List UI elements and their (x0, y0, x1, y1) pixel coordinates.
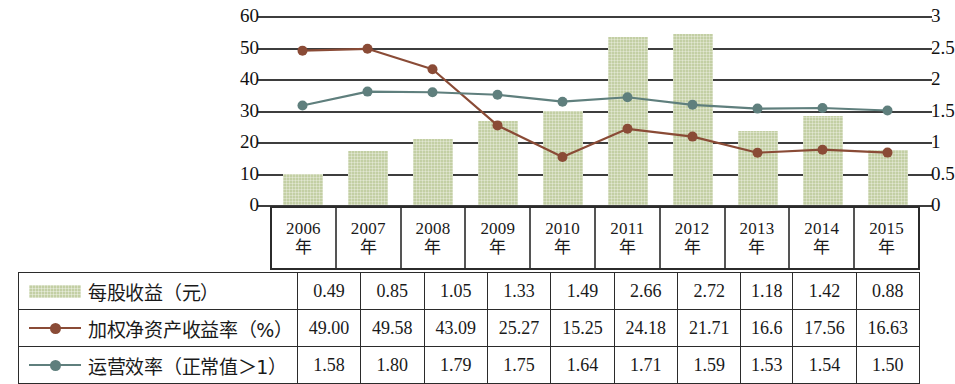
table-cell-value: 1.71 (614, 347, 677, 384)
right-axis-tick-label: 1 (931, 132, 941, 151)
legend-bar-swatch-icon (29, 285, 81, 298)
table-cell-value: 1.42 (793, 273, 856, 310)
left-tick-stub (258, 79, 270, 81)
year-header-cell: 2009年 (466, 208, 531, 268)
left-axis-tick-label: 60 (240, 6, 259, 25)
table-cell-value: 21.71 (678, 310, 741, 347)
right-axis-tick-label: 2.5 (931, 38, 955, 57)
year-header-cell: 2015年 (855, 208, 918, 268)
data-point-marker (883, 106, 893, 116)
table-cell-value: 49.00 (297, 310, 360, 347)
line-series-layer (270, 16, 920, 205)
right-axis-tick-label: 1.5 (931, 101, 955, 120)
table-cell-value: 15.25 (551, 310, 614, 347)
table-cell-value: 43.09 (424, 310, 487, 347)
year-header-cell: 2014年 (790, 208, 855, 268)
data-point-marker (818, 145, 828, 155)
data-point-marker (298, 100, 308, 110)
year-header-cell: 2007年 (337, 208, 402, 268)
left-tick-stub (258, 16, 270, 18)
legend-line-marker-roe-icon (29, 322, 81, 335)
table-cell-value: 1.50 (856, 347, 919, 384)
data-point-marker (428, 64, 438, 74)
data-point-marker (493, 90, 503, 100)
year-header-cell: 2008年 (402, 208, 467, 268)
data-point-marker (298, 46, 308, 56)
year-number: 2014 (804, 219, 839, 238)
table-row: 加权净资产收益率（%）49.0049.5843.0925.2715.2524.1… (19, 310, 920, 347)
right-axis-tick-label: 0 (931, 195, 941, 214)
year-suffix: 年 (554, 238, 571, 257)
data-point-marker (558, 97, 568, 107)
table-cell-value: 1.53 (741, 347, 793, 384)
data-point-marker (363, 44, 373, 54)
left-axis-tick-label: 20 (240, 132, 259, 151)
legend-label: 运营效率（正常值＞1） (88, 352, 287, 379)
left-axis-tick-label: 50 (240, 38, 259, 57)
left-axis-tick-label: 40 (240, 69, 259, 88)
year-header-cell: 2010年 (531, 208, 596, 268)
data-point-marker (428, 87, 438, 97)
right-axis-tick-label: 2 (931, 69, 941, 88)
table-cell-value: 2.66 (614, 273, 677, 310)
table-cell-value: 1.33 (487, 273, 550, 310)
data-point-marker (363, 87, 373, 97)
table-cell-value: 0.49 (297, 273, 360, 310)
left-tick-stub (258, 48, 270, 50)
year-suffix: 年 (684, 238, 701, 257)
data-table: 每股收益（元）0.490.851.051.331.492.662.721.181… (18, 272, 920, 384)
data-point-marker (753, 104, 763, 114)
legend-label: 加权净资产收益率（%） (88, 315, 293, 342)
year-number: 2011 (610, 219, 644, 238)
table-cell-value: 1.54 (793, 347, 856, 384)
plot-area: 0102030405060 00.511.522.53 (270, 16, 920, 205)
data-point-marker (688, 132, 698, 142)
table-cell-value: 49.58 (361, 310, 424, 347)
year-number: 2007 (351, 219, 386, 238)
table-cell-value: 0.88 (856, 273, 919, 310)
year-suffix: 年 (360, 238, 377, 257)
legend-cell: 运营效率（正常值＞1） (19, 347, 298, 384)
table-row: 每股收益（元）0.490.851.051.331.492.662.721.181… (19, 273, 920, 310)
table-row: 运营效率（正常值＞1）1.581.801.791.751.641.711.591… (19, 347, 920, 384)
table-cell-value: 0.85 (361, 273, 424, 310)
year-suffix: 年 (489, 238, 506, 257)
table-cell-value: 1.18 (741, 273, 793, 310)
year-suffix: 年 (748, 238, 765, 257)
table-cell-value: 1.59 (678, 347, 741, 384)
table-cell-value: 16.63 (856, 310, 919, 347)
table-cell-value: 16.6 (741, 310, 793, 347)
left-axis-tick-label: 0 (250, 195, 260, 214)
year-header-cell: 2006年 (272, 208, 337, 268)
line-path (303, 49, 888, 157)
year-header-cell: 2013年 (726, 208, 791, 268)
data-point-marker (753, 148, 763, 158)
year-header-cell: 2011年 (596, 208, 661, 268)
year-number: 2012 (675, 219, 710, 238)
year-suffix: 年 (878, 238, 895, 257)
year-number: 2008 (416, 219, 451, 238)
left-tick-stub (258, 142, 270, 144)
year-suffix: 年 (619, 238, 636, 257)
data-point-marker (883, 148, 893, 158)
data-point-marker (493, 120, 503, 130)
data-point-marker (688, 100, 698, 110)
data-point-marker (818, 103, 828, 113)
year-number: 2010 (545, 219, 580, 238)
year-suffix: 年 (424, 238, 441, 257)
year-header-cell: 2012年 (661, 208, 726, 268)
year-header-row: 2006年2007年2008年2009年2010年2011年2012年2013年… (270, 206, 920, 270)
legend-cell: 每股收益（元） (19, 273, 298, 310)
line-path (303, 92, 888, 111)
year-number: 2006 (286, 219, 321, 238)
table-cell-value: 1.49 (551, 273, 614, 310)
legend-label: 每股收益（元） (88, 278, 219, 305)
legend-cell: 加权净资产收益率（%） (19, 310, 298, 347)
table-cell-value: 2.72 (678, 273, 741, 310)
table-cell-value: 1.79 (424, 347, 487, 384)
left-tick-stub (258, 111, 270, 113)
left-tick-stub (258, 205, 270, 207)
year-number: 2013 (740, 219, 775, 238)
year-number: 2015 (869, 219, 904, 238)
right-axis-tick-label: 3 (931, 6, 941, 25)
